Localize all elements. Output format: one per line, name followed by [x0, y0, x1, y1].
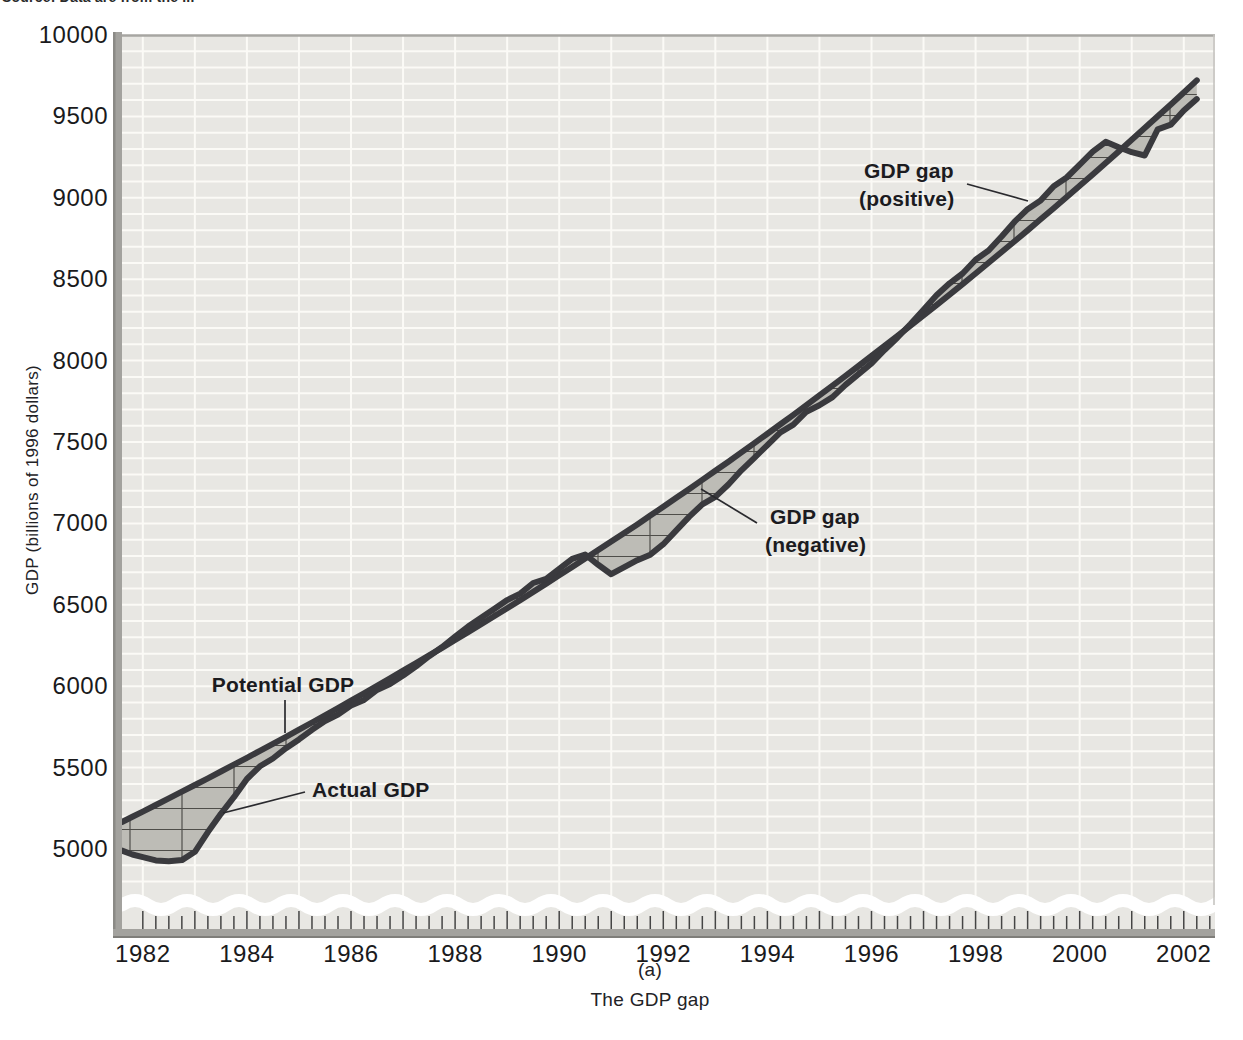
gdp-gap-chart: 5000550060006500700075008000850090009500…	[0, 0, 1243, 1040]
x-tick-label: 1994	[740, 940, 795, 967]
y-tick-label: 7000	[53, 509, 108, 536]
x-tick-label: 1984	[219, 940, 274, 967]
x-tick-label: 2002	[1156, 940, 1211, 967]
x-axis-labels: 1982198419861988199019921994199619982000…	[115, 940, 1211, 967]
gdp-gap-negative-label-line1: GDP gap	[770, 505, 860, 528]
plot-area	[122, 35, 1215, 929]
textbook-figure-page: Source: Data are from the ... 500055006	[0, 0, 1243, 1040]
y-axis-title: GDP (billions of 1996 dollars)	[23, 365, 42, 595]
y-axis-bar-edge	[113, 32, 116, 937]
y-axis-labels: 5000550060006500700075008000850090009500…	[39, 21, 108, 862]
y-tick-label: 6000	[53, 672, 108, 699]
x-tick-label: 1986	[323, 940, 378, 967]
y-tick-label: 8500	[53, 265, 108, 292]
x-tick-label: 1998	[948, 940, 1003, 967]
x-tick-label: 2000	[1052, 940, 1107, 967]
y-tick-label: 7500	[53, 428, 108, 455]
gdp-gap-positive-label-line2: (positive)	[859, 187, 954, 210]
y-tick-label: 6500	[53, 591, 108, 618]
panel-label: (a)	[638, 959, 662, 980]
gdp-gap-positive-label-line1: GDP gap	[864, 159, 954, 182]
y-tick-label: 5000	[53, 835, 108, 862]
gdp-gap-negative-label-line2: (negative)	[765, 533, 866, 556]
x-tick-label: 1982	[115, 940, 170, 967]
figure-caption: The GDP gap	[590, 989, 709, 1010]
y-tick-label: 5500	[53, 754, 108, 781]
actual-gdp-label: Actual GDP	[312, 778, 430, 801]
y-tick-label: 8000	[53, 347, 108, 374]
y-tick-label: 9000	[53, 184, 108, 211]
y-tick-label: 9500	[53, 102, 108, 129]
x-tick-label: 1988	[427, 940, 482, 967]
x-tick-label: 1996	[844, 940, 899, 967]
y-tick-label: 10000	[39, 21, 108, 48]
x-tick-label: 1990	[532, 940, 587, 967]
potential-gdp-label: Potential GDP	[212, 673, 355, 696]
x-axis-bar	[113, 929, 1215, 937]
